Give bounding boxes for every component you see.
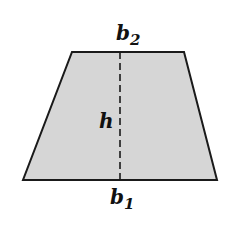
- top-base-label: b2: [116, 21, 140, 49]
- trapezoid-shape: [23, 52, 217, 180]
- trapezoid-diagram: b2 h b1: [0, 0, 240, 225]
- bottom-base-label: b1: [110, 185, 134, 213]
- height-label: h: [99, 109, 114, 133]
